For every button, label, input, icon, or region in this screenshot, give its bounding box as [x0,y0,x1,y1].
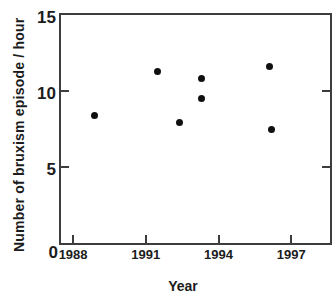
y-tick-mark [322,90,330,92]
data-point [176,119,183,126]
x-tick-label: 1988 [53,247,93,262]
y-axis-title: Number of bruxism episode / hour [10,22,28,252]
y-tick-mark [322,166,330,168]
data-point [91,112,98,119]
origin-tick-label: 0 [38,244,58,262]
x-tick-mark [218,235,220,243]
x-tick-mark [290,235,292,243]
data-point [266,63,273,70]
data-point [198,75,205,82]
x-tick-mark [72,235,74,243]
data-point [198,95,205,102]
x-tick-label: 1997 [271,247,311,262]
x-tick-label: 1994 [199,247,239,262]
y-tick-label: 10 [26,85,56,103]
data-point [154,68,161,75]
x-tick-mark [145,235,147,243]
y-tick-mark [61,90,69,92]
data-point [268,126,275,133]
bruxism-scatter-figure: Number of bruxism episode / hour Year 19… [0,0,336,301]
y-tick-label: 5 [26,161,56,179]
plot-area [59,13,332,245]
x-tick-label: 1991 [126,247,166,262]
y-tick-label: 15 [26,9,56,27]
y-tick-mark [61,166,69,168]
x-axis-title: Year [133,278,233,294]
